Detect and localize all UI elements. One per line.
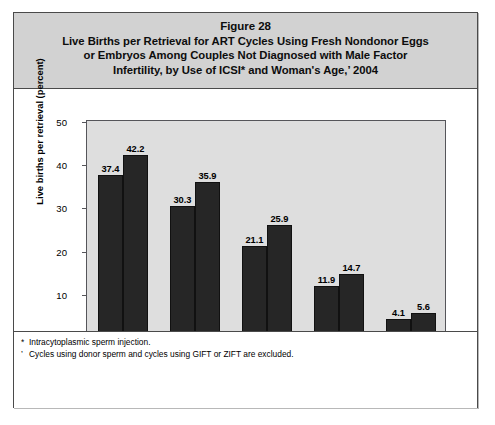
y-tick-label: 20 bbox=[33, 246, 67, 257]
bar-group: 21.125.938–40 bbox=[231, 121, 303, 337]
figure-title-line-1: Live Births per Retrieval for ART Cycles… bbox=[14, 34, 477, 48]
y-tick-mark bbox=[82, 165, 87, 166]
footnote-marker: * bbox=[21, 336, 29, 348]
bar-value-label: 11.9 bbox=[318, 275, 336, 285]
y-tick-label: 10 bbox=[33, 289, 67, 300]
bar-group: 30.335.935–37 bbox=[159, 121, 231, 337]
bar-group: 11.914.741–42 bbox=[303, 121, 375, 337]
bar[interactable]: 25.9 bbox=[267, 225, 292, 337]
bar[interactable]: 30.3 bbox=[170, 206, 195, 337]
bar[interactable]: 21.1 bbox=[242, 246, 267, 337]
bar-value-label: 30.3 bbox=[173, 195, 191, 205]
bar-value-label: 4.1 bbox=[392, 308, 405, 318]
bar[interactable]: 35.9 bbox=[195, 182, 220, 337]
figure-title-line-3: Infertility, by Use of ICSI* and Woman's… bbox=[14, 63, 477, 77]
plot-area: 37.442.2<3530.335.935–3721.125.938–4011.… bbox=[86, 120, 446, 338]
y-tick-mark bbox=[82, 295, 87, 296]
bar-value-label: 5.6 bbox=[417, 302, 430, 312]
figure-title-line-2: or Embryos Among Couples Not Diagnosed w… bbox=[14, 48, 477, 62]
bar-value-label: 42.2 bbox=[126, 144, 144, 154]
y-tick-label: 50 bbox=[33, 117, 67, 128]
bar[interactable]: 42.2 bbox=[123, 155, 148, 337]
footnote: *Intracytoplasmic sperm injection. bbox=[21, 336, 477, 348]
bar-group: 37.442.2<35 bbox=[87, 121, 159, 337]
bar[interactable]: 37.4 bbox=[98, 175, 123, 337]
footnote-text: Intracytoplasmic sperm injection. bbox=[29, 337, 150, 347]
bar[interactable]: 14.7 bbox=[339, 274, 364, 338]
footnote-marker: ’ bbox=[21, 348, 29, 360]
y-axis-title: Live births per retrieval (percent) bbox=[34, 57, 45, 207]
y-tick-label: 30 bbox=[33, 203, 67, 214]
y-tick-mark bbox=[82, 122, 87, 123]
figure-container: Figure 28 Live Births per Retrieval for … bbox=[13, 12, 478, 408]
bar-value-label: 14.7 bbox=[342, 263, 360, 273]
bar-group: 4.15.6>42 bbox=[375, 121, 447, 337]
footnote: ’Cycles using donor sperm and cycles usi… bbox=[21, 348, 477, 360]
footnotes-block: *Intracytoplasmic sperm injection.’Cycle… bbox=[14, 331, 477, 407]
y-tick-mark bbox=[82, 208, 87, 209]
y-tick-label: 40 bbox=[33, 160, 67, 171]
bar-value-label: 21.1 bbox=[245, 235, 263, 245]
footnote-text: Cycles using donor sperm and cycles usin… bbox=[29, 349, 294, 359]
bar[interactable]: 11.9 bbox=[314, 286, 339, 337]
bar-value-label: 35.9 bbox=[198, 171, 216, 181]
figure-title-band: Figure 28 Live Births per Retrieval for … bbox=[14, 13, 477, 89]
plot-inner: 37.442.2<3530.335.935–3721.125.938–4011.… bbox=[87, 121, 445, 337]
bar-value-label: 25.9 bbox=[270, 214, 288, 224]
y-tick-mark bbox=[82, 252, 87, 253]
bar-value-label: 37.4 bbox=[101, 164, 119, 174]
figure-number: Figure 28 bbox=[14, 19, 477, 34]
